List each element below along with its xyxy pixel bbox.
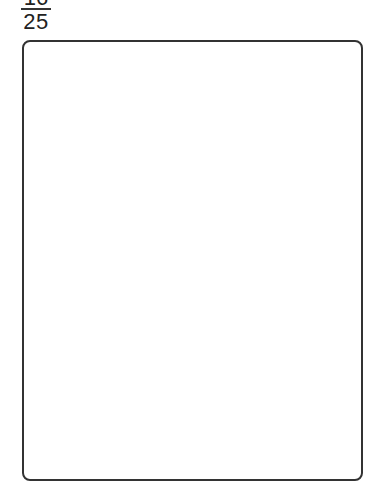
fraction-denominator: 25	[20, 10, 52, 32]
fraction: 16 25	[20, 0, 52, 32]
answer-box[interactable]	[22, 40, 363, 481]
fraction-numerator: 16	[20, 0, 52, 8]
